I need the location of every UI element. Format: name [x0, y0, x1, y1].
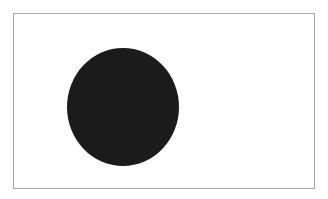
- black-circle-shape: [67, 48, 179, 166]
